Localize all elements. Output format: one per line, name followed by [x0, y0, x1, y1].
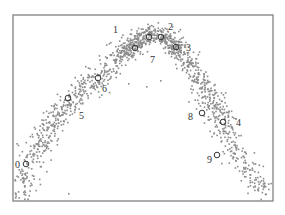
cluster-label-9: 9 — [207, 154, 212, 165]
cluster-marker-4 — [220, 119, 226, 125]
cluster-label-1: 1 — [113, 24, 118, 35]
cluster-label-6: 6 — [102, 83, 107, 94]
cluster-marker-9 — [214, 152, 220, 158]
cluster-label-3: 3 — [186, 42, 191, 53]
cluster-label-4: 4 — [236, 117, 241, 128]
scatter-chart: 0123456789 — [0, 0, 285, 215]
cluster-markers: 0123456789 — [15, 21, 241, 170]
cluster-marker-8 — [199, 110, 205, 116]
cluster-label-8: 8 — [188, 111, 193, 122]
cluster-label-5: 5 — [79, 110, 84, 121]
cluster-label-2: 2 — [168, 21, 173, 32]
cluster-label-0: 0 — [15, 159, 20, 170]
cluster-label-7: 7 — [150, 54, 155, 65]
scatter-points — [14, 22, 272, 200]
